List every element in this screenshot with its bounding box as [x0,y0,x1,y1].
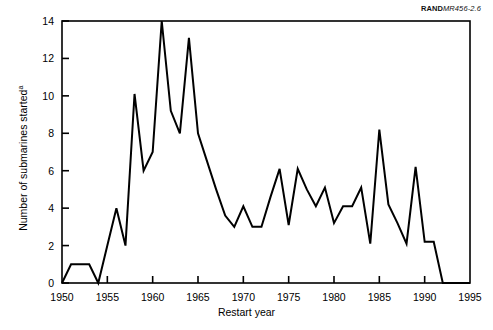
x-tick-label: 1965 [186,291,210,303]
x-tick-label: 1950 [50,291,74,303]
x-tick-label: 1980 [322,291,346,303]
data-series-group [62,21,470,283]
x-axis-title: Restart year [0,306,493,318]
x-tick-label: 1995 [458,291,482,303]
x-tick-label: 1960 [141,291,165,303]
y-tick-label: 0 [48,277,54,289]
line-chart: 02468101214 1950195519601965197019751980… [0,0,493,330]
y-tick-label: 6 [48,165,54,177]
y-tick-label: 10 [42,90,54,102]
data-series-line [62,21,470,283]
y-tick-label: 12 [42,52,54,64]
figure-container: RANDMR456-2.6 02468101214 19501955196019… [0,0,493,330]
x-tick-label: 1985 [368,291,392,303]
y-tick-label: 14 [42,15,54,27]
x-tick-label: 1990 [413,291,437,303]
x-tick-label: 1970 [232,291,256,303]
y-axis-title-text: Number of submarines started [17,90,29,231]
x-tick-label: 1975 [277,291,301,303]
y-tick-label: 2 [48,240,54,252]
y-axis-ticks: 02468101214 [42,15,69,289]
x-tick-label: 1955 [96,291,120,303]
y-tick-label: 4 [48,202,54,214]
plot-frame [62,21,470,283]
y-tick-label: 8 [48,127,54,139]
y-axis-title: Number of submarines starteda [17,58,30,258]
x-axis-ticks: 1950195519601965197019751980198519901995 [50,276,482,303]
y-axis-title-superscript: a [17,86,24,90]
